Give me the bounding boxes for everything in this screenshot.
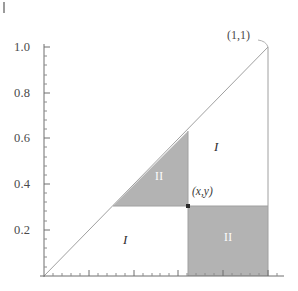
region-label-ii-upper: II xyxy=(155,171,163,183)
corner-label-1-1: (1,1) xyxy=(227,29,250,41)
region-label-i-upper: I xyxy=(214,140,218,153)
point-label-xy: (x,y) xyxy=(192,186,213,198)
figure-container: 1.0 0.8 0.6 0.4 0.2 (1,1) (x,y) I I II I… xyxy=(0,0,298,291)
y-tick-label-0-2: 0.2 xyxy=(14,224,30,237)
y-axis-major-ticks xyxy=(44,47,50,230)
point-marker xyxy=(186,204,190,208)
region-label-ii-lower: II xyxy=(224,232,232,244)
region-label-i-lower: I xyxy=(123,233,127,246)
y-tick-label-0-8: 0.8 xyxy=(14,87,30,100)
y-tick-label-0-4: 0.4 xyxy=(14,178,30,191)
y-tick-label-1-0: 1.0 xyxy=(14,41,30,54)
y-tick-label-0-6: 0.6 xyxy=(14,132,30,145)
plot-canvas xyxy=(0,0,298,291)
corner-leader-line xyxy=(258,40,268,47)
shaded-region-ii-upper xyxy=(113,131,188,206)
